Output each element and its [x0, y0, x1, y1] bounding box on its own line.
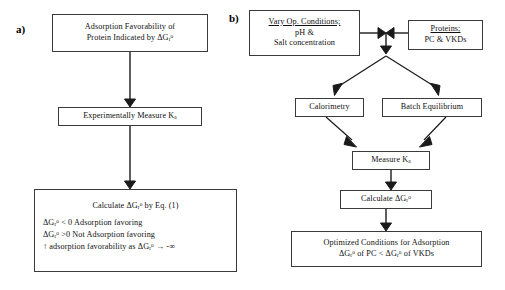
batch-equilibrium-box: Batch Equilibrium: [382, 98, 482, 117]
vary-conditions-heading: Vary Op. Conditions;: [269, 17, 341, 28]
proteins-box: Proteins; PC & VKDs: [408, 20, 483, 50]
calculate-dgr-box: Calculate ΔGro by Eq. (1) ΔGro < 0 Adsor…: [34, 189, 237, 272]
batch-equilibrium-label: Batch Equilibrium: [401, 102, 463, 113]
edge-a1-to-a2: [125, 52, 136, 107]
edge-split-to-batch: [386, 56, 440, 96]
experimentally-measure-ka-box: Experimentally Measure Ka: [58, 107, 202, 126]
panel-label-b: b): [229, 13, 239, 24]
edge-measure-to-calculate: [386, 170, 397, 190]
calorimetry-label: Calorimetry: [309, 102, 350, 113]
adsorption-favorability-box: Adsorption Favorability of Protein Indic…: [52, 14, 208, 52]
edge-calorimetry-to-measure: [326, 117, 357, 147]
edge-calculate-to-optimized: [381, 209, 392, 231]
calc-condition-line-2: ΔGro >0 Not Adsorption favoring: [43, 230, 236, 241]
proteins-line-1: PC & VKDs: [424, 35, 466, 46]
edge-a2-to-a3: [125, 126, 136, 189]
calculate-dgr-box-b: Calculate ΔGro: [340, 190, 432, 209]
proteins-heading: Proteins;: [430, 24, 460, 35]
experimentally-measure-ka-label: Experimentally Measure Ka: [83, 111, 177, 122]
optimized-conditions-box: Optimized Conditions for Adsorption ΔGro…: [291, 231, 482, 267]
vary-operating-conditions-box: Vary Op. Conditions; pH & Salt concentra…: [249, 10, 360, 56]
edge-batch-to-measure: [420, 117, 447, 147]
optimized-conditions-line-1: Optimized Conditions for Adsorption: [323, 238, 449, 249]
edge-conditions-to-junction: [360, 28, 386, 39]
calculate-dgr-label-b: Calculate ΔGro: [361, 194, 411, 205]
vary-conditions-line-2: Salt concentration: [274, 38, 335, 49]
flowchart-figure: a) Adsorption Favorability of Protein In…: [0, 0, 505, 290]
adsorption-favorability-line-1: Adsorption Favorability of: [85, 22, 175, 33]
adsorption-favorability-line-2: Protein Indicated by ΔGro: [87, 33, 174, 44]
edge-junction-down: [381, 33, 392, 54]
edge-split-to-calorimetry: [333, 56, 386, 96]
measure-ka-box: Measure Ka: [352, 151, 430, 170]
calorimetry-box: Calorimetry: [295, 98, 364, 117]
measure-ka-label: Measure Ka: [371, 155, 411, 166]
edge-proteins-to-junction: [386, 28, 408, 39]
optimized-conditions-line-2: ΔGro of PC < ΔGro of VKDs: [339, 249, 434, 260]
calculate-dgr-body: ΔGro < 0 Adsorption favoring ΔGro >0 Not…: [35, 218, 236, 255]
calc-condition-line-1: ΔGro < 0 Adsorption favoring: [43, 218, 236, 229]
calculate-dgr-heading: Calculate ΔGro by Eq. (1): [35, 201, 236, 212]
panel-label-a: a): [16, 24, 25, 35]
vary-conditions-line-1: pH &: [295, 28, 314, 39]
calc-condition-line-3: ↑ adsorption favorability as ΔGro → -∞: [43, 242, 236, 253]
